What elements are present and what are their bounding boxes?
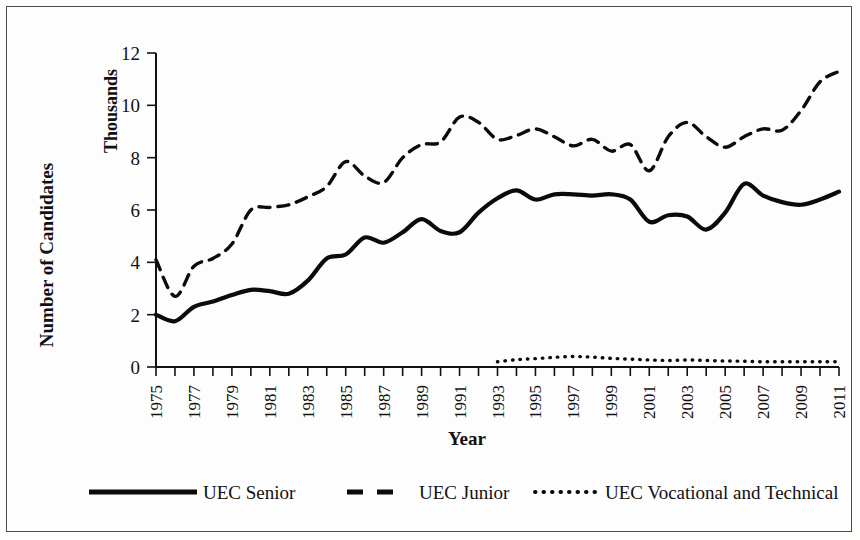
y-tick-label: 4: [131, 252, 141, 273]
series-line-uec-junior: [156, 71, 839, 296]
x-tick-label: 1989: [413, 385, 432, 419]
x-tick-label: 1975: [147, 385, 166, 419]
x-tick-label: 2003: [678, 385, 697, 419]
x-tick-label: 1997: [564, 385, 583, 420]
x-tick-label: 1995: [526, 385, 545, 419]
x-tick-label: 1979: [223, 385, 242, 419]
x-tick-label: 1999: [602, 385, 621, 419]
plot-area: Thousands Number of Candidates Year 0246…: [7, 7, 853, 533]
series-line-uec-vocational-and-technical: [498, 357, 840, 362]
y-tick-label: 10: [121, 95, 140, 116]
y-tick-label: 12: [121, 43, 140, 64]
legend-label-uec-senior: UEC Senior: [203, 482, 296, 503]
x-tick-label: 1983: [299, 385, 318, 419]
x-tick-label: 2011: [830, 385, 849, 418]
x-tick-label: 1977: [185, 385, 204, 420]
y-tick-label: 0: [131, 357, 141, 378]
chart-legend: UEC Senior UEC Junior UEC Vocational and…: [89, 482, 838, 503]
y-tick-label: 6: [131, 200, 141, 221]
x-tick-label: 1993: [489, 385, 508, 419]
y-tick-label: 2: [131, 305, 141, 326]
legend-label-uec-junior: UEC Junior: [419, 482, 510, 503]
x-tick-label: 2001: [640, 385, 659, 419]
x-tick-label: 1985: [337, 385, 356, 419]
legend-label-uec-vocational-and-technical: UEC Vocational and Technical: [605, 482, 838, 503]
y-axis-ticks: [147, 53, 156, 367]
x-axis-tick-labels: 1975197719791981198319851987198919911993…: [147, 385, 849, 420]
x-tick-label: 1991: [451, 385, 470, 419]
y-tick-label: 8: [131, 148, 141, 169]
chart-figure: Thousands Number of Candidates Year 0246…: [6, 6, 852, 532]
x-axis-ticks: [156, 367, 839, 376]
series-line-uec-senior: [156, 183, 839, 321]
y-axis-title: Number of Candidates: [36, 163, 57, 347]
x-tick-label: 2005: [716, 385, 735, 419]
y-axis-tick-labels: 024681012: [121, 43, 141, 378]
x-tick-label: 1981: [261, 385, 280, 419]
x-tick-label: 2007: [754, 385, 773, 420]
y-axis-unit-label: Thousands: [101, 69, 121, 153]
x-axis-title: Year: [448, 428, 487, 449]
x-tick-label: 1987: [375, 385, 394, 420]
x-tick-label: 2009: [792, 385, 811, 419]
line-chart-svg: Thousands Number of Candidates Year 0246…: [7, 7, 853, 533]
